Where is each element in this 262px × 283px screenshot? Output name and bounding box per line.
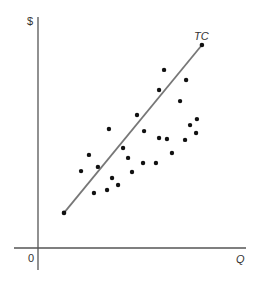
- data-point: [162, 68, 166, 72]
- data-point: [79, 169, 83, 173]
- data-point: [107, 127, 111, 131]
- tc-line-segment: [64, 45, 202, 213]
- data-point: [135, 113, 139, 117]
- data-point: [188, 123, 192, 127]
- data-point: [154, 161, 158, 165]
- x-axis-label: Q: [236, 253, 245, 265]
- data-point: [142, 129, 146, 133]
- data-point: [141, 161, 145, 165]
- tc-endpoint: [200, 43, 205, 48]
- data-point: [92, 191, 96, 195]
- data-point: [170, 151, 174, 155]
- data-point: [194, 131, 198, 135]
- data-point: [121, 146, 125, 150]
- scatter-points: [79, 68, 199, 196]
- scatter-chart: $ 0 Q TC: [0, 0, 262, 283]
- data-point: [184, 78, 188, 82]
- axes: [14, 17, 246, 270]
- y-axis-label: $: [27, 15, 33, 27]
- tc-endpoint: [62, 211, 67, 216]
- tc-label: TC: [194, 30, 209, 42]
- data-point: [105, 188, 109, 192]
- data-point: [87, 153, 91, 157]
- data-point: [110, 176, 114, 180]
- data-point: [165, 137, 169, 141]
- data-point: [96, 165, 100, 169]
- data-point: [116, 183, 120, 187]
- data-point: [195, 117, 199, 121]
- tc-line: [62, 43, 205, 216]
- data-point: [183, 138, 187, 142]
- data-point: [130, 170, 134, 174]
- origin-label: 0: [28, 252, 34, 264]
- data-point: [157, 88, 161, 92]
- data-point: [178, 99, 182, 103]
- data-point: [157, 136, 161, 140]
- data-point: [126, 156, 130, 160]
